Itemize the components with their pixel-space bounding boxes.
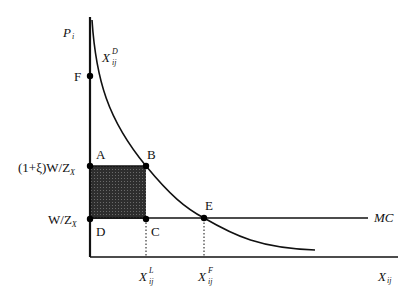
- demand-curve-label: XDij: [102, 51, 110, 64]
- point-a: [87, 163, 93, 169]
- label-d: D: [96, 225, 105, 238]
- y-tick-upper: (1+ξ)W/ZX: [18, 161, 75, 174]
- label-a: A: [96, 148, 105, 161]
- point-e: [201, 215, 207, 221]
- mc-label: MC: [374, 211, 394, 224]
- y-tick-lower: W/ZX: [48, 213, 77, 226]
- shaded-area-abcd: [90, 166, 146, 219]
- x-axis-label: Xij: [378, 270, 386, 283]
- diagram-canvas: Pi Xij XDij MC F A B C D E (1+ξ)W/ZX W/Z…: [0, 0, 411, 299]
- diagram-graphics: [0, 0, 411, 299]
- point-f: [87, 73, 93, 79]
- point-b: [143, 163, 149, 169]
- x-tick-xl: XLij: [139, 270, 147, 283]
- y-axis-label: Pi: [63, 26, 71, 39]
- label-e: E: [205, 199, 213, 212]
- label-f: F: [74, 70, 81, 83]
- x-tick-xf: XFij: [198, 270, 206, 283]
- point-c: [143, 216, 149, 222]
- label-b: B: [147, 148, 156, 161]
- label-c: C: [151, 225, 160, 238]
- point-d: [87, 216, 93, 222]
